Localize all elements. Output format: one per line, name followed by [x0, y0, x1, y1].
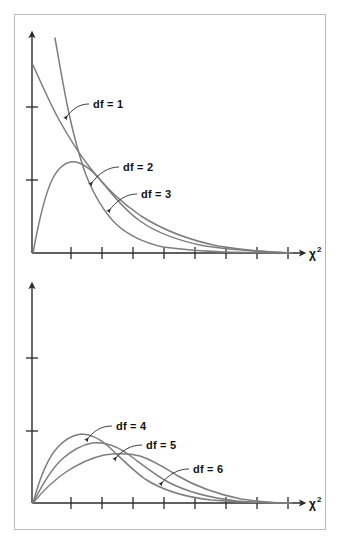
annotation-df-6: df = 6 [160, 463, 223, 485]
curve-df-5 [33, 443, 292, 503]
x-axis-title-bottom-superscript: 2 [317, 495, 322, 504]
curve-label-df-3: df = 3 [141, 188, 171, 200]
chi-square-panel-bottom: df = 4 df = 5 df = 6 χ 2 [15, 273, 327, 531]
figure-frame: df = 1 df = 2 df = 3 χ 2 [14, 14, 326, 530]
curve-label-df-5: df = 5 [146, 439, 176, 451]
chi-square-panel-top: df = 1 df = 2 df = 3 χ 2 [15, 15, 327, 273]
curve-label-df-4: df = 4 [116, 420, 147, 432]
curve-label-df-1: df = 1 [93, 98, 123, 110]
annotation-df-1: df = 1 [65, 98, 123, 119]
annotation-df-2: df = 2 [90, 161, 153, 185]
curve-df-3 [33, 162, 292, 253]
leader-line-df-2 [90, 167, 119, 185]
x-axis-title-top-symbol: χ [309, 247, 316, 261]
curve-label-df-6: df = 6 [193, 463, 223, 475]
curve-df-1 [55, 38, 292, 253]
leader-line-df-6 [160, 469, 189, 485]
annotation-df-5: df = 5 [114, 439, 176, 460]
leader-line-df-5 [114, 445, 142, 460]
x-axis-title-top-superscript: 2 [317, 245, 322, 254]
x-axis-title-top: χ 2 [309, 245, 322, 261]
x-axis-title-bottom-symbol: χ [309, 497, 316, 511]
curve-label-df-2: df = 2 [123, 161, 153, 173]
x-axis-title-bottom: χ 2 [309, 495, 322, 511]
curve-df-2 [33, 65, 292, 253]
